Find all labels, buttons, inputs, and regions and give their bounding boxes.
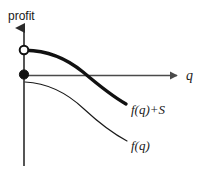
upper-curve-label: f(q)+S <box>131 102 166 117</box>
diagram-canvas: profit q f(q)+S f(q) <box>0 0 202 173</box>
open-circle-marker <box>20 46 29 55</box>
lower-curve-label: f(q) <box>131 138 150 153</box>
profit-axis-label: profit <box>8 9 35 23</box>
q-axis-label: q <box>186 68 193 83</box>
upper-curve-path <box>26 50 127 104</box>
profit-subsidy-diagram: profit q f(q)+S f(q) <box>0 0 202 173</box>
filled-circle-marker <box>19 70 28 79</box>
lower-curve-path <box>25 82 127 141</box>
